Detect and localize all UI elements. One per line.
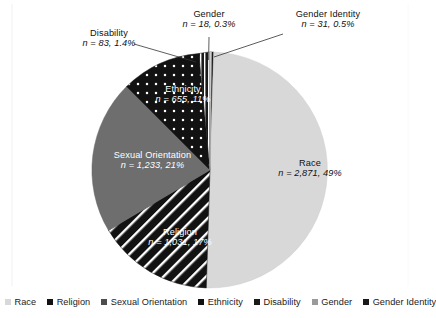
- legend-label-race: Race: [15, 297, 37, 307]
- legend-swatch-disability-icon: [254, 299, 260, 305]
- slice-label-disability-name: Disability: [54, 28, 164, 38]
- legend-item-gender[interactable]: Gender: [312, 297, 352, 307]
- slice-label-race: Race n = 2,871, 49%: [245, 158, 375, 179]
- legend-swatch-ethnicity-icon: [198, 299, 204, 305]
- legend-swatch-race-icon: [5, 299, 11, 305]
- legend-item-religion[interactable]: Religion: [47, 297, 90, 307]
- slice-label-ethnicity-value: n = 655, 11%: [128, 94, 238, 104]
- slice-label-disability: Disability n = 83, 1.4%: [54, 28, 164, 49]
- slice-label-race-value: n = 2,871, 49%: [245, 168, 375, 178]
- slice-label-disability-value: n = 83, 1.4%: [54, 38, 164, 48]
- slice-label-sexual-orientation-name: Sexual Orientation: [90, 150, 215, 160]
- legend-item-gender-identity[interactable]: Gender Identity: [363, 297, 436, 307]
- slice-label-sexual-orientation: Sexual Orientation n = 1,233, 21%: [90, 150, 215, 171]
- slice-label-gender-identity-name: Gender Identity: [269, 9, 387, 19]
- slice-label-gender-name: Gender: [161, 9, 257, 19]
- legend-item-ethnicity[interactable]: Ethnicity: [198, 297, 243, 307]
- slice-label-race-name: Race: [245, 158, 375, 168]
- legend-swatch-religion-icon: [47, 299, 53, 305]
- legend-label-ethnicity: Ethnicity: [208, 297, 243, 307]
- legend-label-sexual-orientation: Sexual Orientation: [111, 297, 188, 307]
- legend-label-disability: Disability: [263, 297, 300, 307]
- legend-item-race[interactable]: Race: [5, 297, 36, 307]
- legend-label-gender-identity: Gender Identity: [373, 297, 436, 307]
- slice-label-gender: Gender n = 18, 0.3%: [161, 9, 257, 30]
- slice-label-gender-identity-value: n = 31, 0.5%: [269, 19, 387, 29]
- legend-swatch-sexual-orientation-icon: [101, 299, 107, 305]
- legend-label-religion: Religion: [57, 297, 91, 307]
- legend-label-gender: Gender: [321, 297, 352, 307]
- chart-legend: Race Religion Sexual Orientation Ethnici…: [0, 294, 420, 310]
- slice-label-religion-value: n = 1,031, 17%: [120, 237, 240, 247]
- legend-swatch-gender-icon: [312, 299, 318, 305]
- slice-label-gender-value: n = 18, 0.3%: [161, 19, 257, 29]
- legend-swatch-gender-identity-icon: [363, 299, 369, 305]
- slice-label-religion: Religion n = 1,031, 17%: [120, 227, 240, 248]
- slice-label-gender-identity: Gender Identity n = 31, 0.5%: [269, 9, 387, 30]
- slice-label-ethnicity-name: Ethnicity: [128, 84, 238, 94]
- legend-item-sexual-orientation[interactable]: Sexual Orientation: [101, 297, 187, 307]
- slice-label-religion-name: Religion: [120, 227, 240, 237]
- slice-label-ethnicity: Ethnicity n = 655, 11%: [128, 84, 238, 105]
- slice-label-sexual-orientation-value: n = 1,233, 21%: [90, 160, 215, 170]
- leader-line-gender-identity: [214, 34, 283, 57]
- legend-item-disability[interactable]: Disability: [254, 297, 301, 307]
